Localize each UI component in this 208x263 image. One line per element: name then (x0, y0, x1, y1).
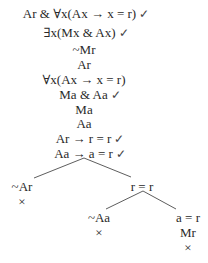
trunk-formula: ∃x(Mx & Ax)✓ (43, 25, 128, 41)
trunk-formula: ∀x(Ax → x = r) (42, 72, 125, 87)
formula-text: × (18, 194, 25, 209)
closed-branch-cross-icon: × (184, 240, 191, 255)
formula-text: Aa (76, 116, 91, 131)
checkmark-icon: ✓ (119, 26, 129, 40)
checkmark-icon: ✓ (116, 147, 126, 161)
closed-branch-cross-icon: × (18, 194, 25, 209)
formula-text: r = r (131, 179, 154, 194)
trunk-formula: Ar & ∀x(Ax → x = r)✓ (23, 6, 149, 22)
formula-text: Ar (77, 57, 91, 72)
formula-text: Ar & ∀x(Ax → x = r) (23, 6, 136, 21)
formula-text: × (95, 225, 102, 240)
formula-text: Ar → r = r (56, 131, 112, 146)
left-branch-formula: ~Ar (12, 179, 33, 194)
trunk-formula: Aa → a = r✓ (54, 146, 126, 162)
formula-text: ~Aa (88, 210, 110, 225)
formula-text: Ma (75, 102, 92, 117)
sub-right-branch-formula: Mr (180, 225, 196, 240)
formula-text: ~Ar (12, 179, 33, 194)
formula-text: a = r (176, 210, 200, 225)
trunk-formula: Ma (75, 102, 92, 117)
closed-branch-cross-icon: × (95, 225, 102, 240)
formula-text: ∃x(Mx & Ax) (43, 25, 115, 40)
formula-text: Mr (180, 225, 196, 240)
trunk-formula: Ar (77, 57, 91, 72)
formula-text: ∀x(Ax → x = r) (42, 72, 125, 87)
formula-text: Aa → a = r (54, 146, 113, 161)
sub-right-branch-formula: a = r (176, 210, 200, 225)
checkmark-icon: ✓ (139, 7, 149, 21)
trunk-formula: Aa (76, 116, 91, 131)
checkmark-icon: ✓ (114, 132, 124, 146)
trunk-formula: ~Mr (73, 42, 96, 57)
formula-text: ~Mr (73, 42, 96, 57)
sub-left-branch-formula: ~Aa (88, 210, 110, 225)
formula-text: × (184, 240, 191, 255)
formula-text: Ma & Aa (59, 87, 107, 102)
checkmark-icon: ✓ (111, 88, 121, 102)
trunk-formula: Ma & Aa✓ (59, 87, 120, 103)
trunk-formula: Ar → r = r✓ (56, 131, 125, 147)
right-branch-formula: r = r (131, 179, 154, 194)
